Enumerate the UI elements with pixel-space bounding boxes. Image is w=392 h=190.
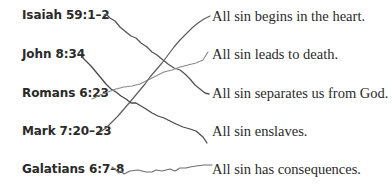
line-isaiah-to-separates bbox=[104, 14, 209, 94]
reference-galatians[interactable]: Galatians 6:7–8 bbox=[22, 162, 124, 176]
statement-leads-to-death[interactable]: All sin leads to death. bbox=[212, 46, 338, 62]
reference-isaiah[interactable]: Isaiah 59:1–2 bbox=[22, 8, 110, 22]
statement-separates-from-god[interactable]: All sin separates us from God. bbox=[212, 85, 388, 101]
statement-enslaves[interactable]: All sin enslaves. bbox=[212, 123, 307, 139]
reference-romans[interactable]: Romans 6:23 bbox=[22, 86, 109, 100]
statement-has-consequences[interactable]: All sin has consequences. bbox=[212, 161, 361, 177]
line-mark-to-heart bbox=[100, 16, 210, 132]
reference-mark[interactable]: Mark 7:20–23 bbox=[22, 124, 111, 138]
reference-john[interactable]: John 8:34 bbox=[22, 47, 85, 61]
statement-begins-in-heart[interactable]: All sin begins in the heart. bbox=[212, 8, 365, 24]
line-galatians-to-consequences bbox=[112, 165, 212, 174]
line-romans-to-death bbox=[92, 52, 208, 99]
